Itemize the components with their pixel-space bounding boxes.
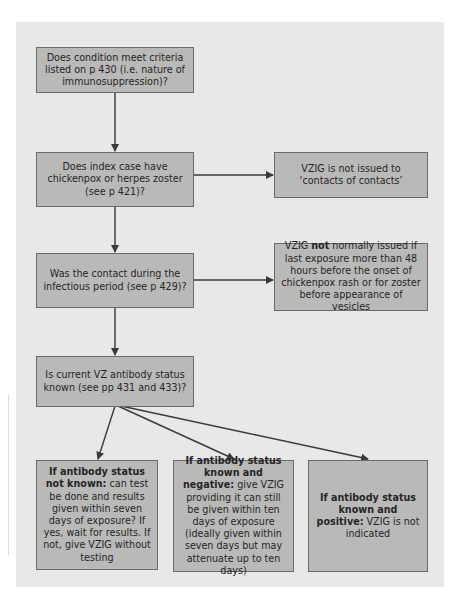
node-index-case: Does index case have chickenpox or herpe… — [36, 152, 194, 207]
node-text: Is current VZ antibody status known (see… — [43, 369, 187, 393]
node-antibody-status: Is current VZ antibody status known (see… — [36, 356, 194, 407]
node-text: If antibody status known and positive: V… — [315, 492, 421, 541]
outcome-status-negative: If antibody status known and negative: g… — [173, 460, 294, 572]
node-text: VZIG is not issued to ‘contacts of conta… — [281, 163, 421, 187]
node-text: Was the contact during the infectious pe… — [43, 268, 187, 292]
node-text: If antibody status not known: can test b… — [43, 466, 151, 564]
node-text: VZIG not normally issued if last exposur… — [281, 240, 421, 313]
outcome-status-positive: If antibody status known and positive: V… — [308, 460, 428, 572]
arrow-q4-unknown — [98, 406, 115, 459]
node-text: If antibody status known and negative: g… — [180, 455, 287, 577]
node-text: Does index case have chickenpox or herpe… — [43, 161, 187, 198]
arrow-q4-negative — [118, 406, 234, 459]
arrow-q4-positive — [121, 406, 368, 459]
node-infectious-period: Was the contact during the infectious pe… — [36, 253, 194, 308]
node-contacts-of-contacts: VZIG is not issued to ‘contacts of conta… — [274, 152, 428, 198]
outcome-status-unknown: If antibody status not known: can test b… — [36, 460, 158, 570]
node-text: Does condition meet criteria listed on p… — [43, 52, 187, 89]
node-immunosuppression-criteria: Does condition meet criteria listed on p… — [36, 47, 194, 93]
node-exposure-timing: VZIG not normally issued if last exposur… — [274, 243, 428, 311]
